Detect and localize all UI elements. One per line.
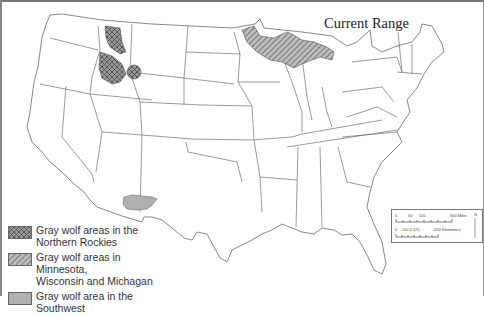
solid-swatch-icon (8, 292, 32, 305)
legend-label: Gray wolf areas in the (36, 224, 138, 236)
legend-item-northern-rockies: Gray wolf areas in the Northern Rockies (8, 224, 158, 248)
scale-km-450: 450 Kilometers (434, 227, 461, 232)
map-title: Current Range (324, 15, 409, 32)
north-label: N (474, 212, 477, 217)
legend-label: Gray wolf areas in Minnesota, (36, 251, 158, 275)
legend-item-great-lakes: Gray wolf areas in Minnesota, Wisconsin … (8, 251, 158, 287)
scale-km-112: 112.5 225 (402, 227, 420, 232)
legend-label: Gray wolf area in the (36, 290, 133, 302)
range-northern-rockies-3 (127, 65, 141, 79)
scale-km-0: 0 (395, 227, 397, 232)
legend-label: Southwest (36, 302, 133, 314)
legend-label: Wisconsin and Michagan (36, 275, 158, 287)
scale-ticks (392, 210, 482, 242)
legend: Gray wolf areas in the Northern Rockies … (8, 224, 158, 316)
scale-bar: 0 50 100 300 Miles 0 112.5 225 450 Kilom… (391, 209, 483, 243)
diagonal-hatch-swatch-icon (8, 253, 32, 266)
legend-item-southwest: Gray wolf area in the Southwest (8, 290, 158, 314)
legend-label: Northern Rockies (36, 236, 138, 248)
crosshatch-swatch-icon (8, 226, 32, 239)
